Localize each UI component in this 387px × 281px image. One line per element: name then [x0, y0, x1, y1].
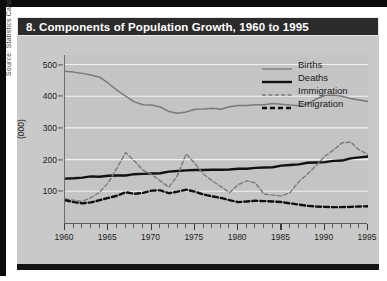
legend-item-deaths: Deaths	[262, 71, 374, 84]
y-tick-mark	[58, 159, 63, 160]
x-tick-label: 1980	[228, 232, 247, 242]
x-major-tick	[107, 224, 108, 230]
x-minor-tick	[211, 224, 212, 228]
x-minor-tick	[332, 224, 333, 228]
x-major-tick	[64, 224, 65, 230]
x-minor-tick	[90, 224, 91, 228]
x-major-tick	[151, 224, 152, 230]
x-minor-tick	[81, 224, 82, 228]
x-major-tick	[194, 224, 195, 230]
x-tick-label: 1975	[184, 232, 203, 242]
legend-swatch-icon	[262, 73, 292, 83]
x-major-tick	[280, 224, 281, 230]
y-tick-mark	[58, 191, 63, 192]
page-top-edge-bar	[0, 0, 387, 7]
x-axis-line	[64, 223, 367, 224]
legend-label: Immigration	[298, 85, 348, 96]
y-axis-tick-marks	[17, 55, 67, 223]
x-tick-label: 1990	[314, 232, 333, 242]
x-tick-label: 1970	[141, 232, 160, 242]
x-tick-label: 1965	[98, 232, 117, 242]
legend-swatch-icon	[262, 86, 292, 96]
y-tick-mark	[58, 127, 63, 128]
figure-panel: 8. Components of Population Growth, 1960…	[17, 17, 379, 270]
x-minor-tick	[350, 224, 351, 228]
legend-label: Emigration	[298, 98, 343, 109]
x-minor-tick	[168, 224, 169, 228]
x-tick-label: 1995	[358, 232, 377, 242]
x-minor-tick	[99, 224, 100, 228]
x-minor-tick	[185, 224, 186, 228]
figure-title-bar: 8. Components of Population Growth, 1960…	[17, 17, 379, 36]
x-axis-tick-labels: 19601965197019751980198519901995	[64, 232, 374, 246]
x-axis	[64, 223, 367, 231]
x-minor-tick	[263, 224, 264, 228]
x-minor-tick	[73, 224, 74, 228]
x-minor-tick	[254, 224, 255, 228]
x-minor-tick	[289, 224, 290, 228]
series-line-immigration	[65, 142, 368, 201]
page-canvas: 8. Components of Population Growth, 1960…	[0, 0, 387, 281]
page-bottom-edge-bar	[0, 276, 387, 281]
figure-title: 8. Components of Population Growth, 1960…	[18, 21, 309, 33]
x-minor-tick	[315, 224, 316, 228]
x-tick-label: 1960	[55, 232, 74, 242]
legend-label: Deaths	[298, 72, 328, 83]
x-minor-tick	[220, 224, 221, 228]
legend-item-births: Births	[262, 58, 374, 71]
x-major-tick	[367, 224, 368, 230]
x-minor-tick	[228, 224, 229, 228]
legend-label: Births	[298, 59, 322, 70]
chart-legend: BirthsDeathsImmigrationEmigration	[262, 58, 374, 110]
y-tick-mark	[58, 96, 63, 97]
x-minor-tick	[272, 224, 273, 228]
x-tick-label: 1985	[271, 232, 290, 242]
y-tick-mark	[58, 64, 63, 65]
x-minor-tick	[358, 224, 359, 228]
legend-item-emigration: Emigration	[262, 97, 374, 110]
figure-bottom-band	[17, 264, 379, 270]
source-caption: Source: Statistics Canada, Demography Di…	[5, 0, 12, 76]
x-minor-tick	[125, 224, 126, 228]
x-minor-tick	[142, 224, 143, 228]
x-minor-tick	[159, 224, 160, 228]
x-major-tick	[237, 224, 238, 230]
x-minor-tick	[341, 224, 342, 228]
x-minor-tick	[177, 224, 178, 228]
x-minor-tick	[116, 224, 117, 228]
x-minor-tick	[306, 224, 307, 228]
series-line-emigration	[65, 190, 368, 207]
x-minor-tick	[133, 224, 134, 228]
legend-item-immigration: Immigration	[262, 84, 374, 97]
x-minor-tick	[298, 224, 299, 228]
x-minor-tick	[203, 224, 204, 228]
legend-swatch-icon	[262, 99, 292, 109]
x-minor-tick	[246, 224, 247, 228]
x-major-tick	[324, 224, 325, 230]
chart-body: Source: Statistics Canada, Demography Di…	[17, 36, 379, 270]
legend-swatch-icon	[262, 60, 292, 70]
